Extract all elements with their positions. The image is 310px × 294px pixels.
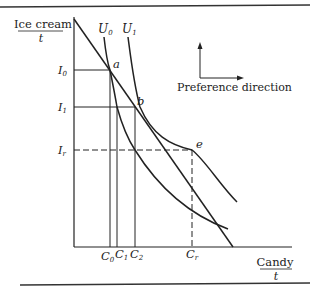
budget-line bbox=[74, 19, 233, 247]
cr-label: Cr bbox=[186, 247, 199, 262]
ir-label: Ir bbox=[57, 143, 67, 158]
x-axis-label-top: Candy bbox=[257, 255, 294, 269]
u1-label: U1 bbox=[122, 22, 137, 37]
c2-label: C2 bbox=[130, 247, 144, 262]
point-a-label: a bbox=[113, 57, 120, 71]
preference-direction-label: Preference direction bbox=[177, 81, 292, 94]
u0-label: U0 bbox=[98, 22, 113, 37]
y-axis-label-bottom: t bbox=[39, 32, 44, 45]
y-axis-label-top: Ice cream bbox=[14, 17, 72, 31]
indifference-curve-u0 bbox=[104, 37, 228, 229]
point-e-label: e bbox=[196, 137, 203, 151]
c1-label: C1 bbox=[115, 247, 128, 262]
i0-label: I0 bbox=[57, 63, 68, 78]
point-b-label: b bbox=[137, 94, 144, 108]
x-axis-label-bottom: t bbox=[274, 270, 279, 283]
i1-label: I1 bbox=[57, 100, 67, 115]
indifference-curve-diagram: Ice cream t Candy t U0 U1 I0 I1 Ir C0 C1… bbox=[0, 0, 310, 294]
bottom-rule bbox=[20, 283, 310, 285]
arrowhead-right-icon bbox=[237, 76, 244, 81]
c0-label: C0 bbox=[101, 249, 115, 264]
top-rule bbox=[0, 5, 310, 7]
arrowhead-up-icon bbox=[198, 42, 203, 49]
